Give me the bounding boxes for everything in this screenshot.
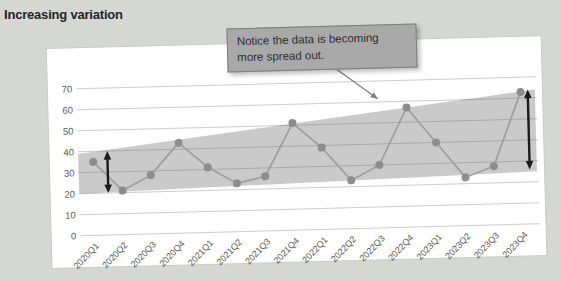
slide: Increasing variation 0102030405060702020… <box>0 0 561 281</box>
y-tick-label: 60 <box>62 104 73 115</box>
y-tick-label: 50 <box>63 125 74 136</box>
y-tick-label: 70 <box>62 83 73 94</box>
spread-arrow-shaft <box>107 158 108 186</box>
y-tick-label: 40 <box>63 146 74 157</box>
y-tick-label: 0 <box>71 230 77 241</box>
y-tick-label: 20 <box>64 188 75 199</box>
y-tick-label: 30 <box>64 167 75 178</box>
annotation-callout: Notice the data is becoming more spread … <box>226 24 417 73</box>
annotation-text: Notice the data is becoming more spread … <box>237 32 379 64</box>
tilted-chart-group: 0102030405060702020Q12020Q22020Q32020Q42… <box>46 36 547 272</box>
y-tick-label: 10 <box>65 209 76 220</box>
